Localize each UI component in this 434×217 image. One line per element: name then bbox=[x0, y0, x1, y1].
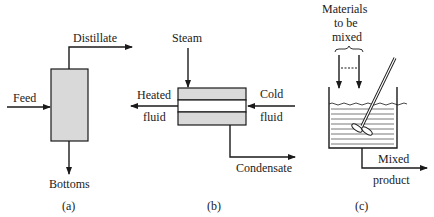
process-diagrams: Feed Distillate Bottoms (a) Steam Cold f… bbox=[0, 0, 434, 217]
heated-label-1: Heated bbox=[137, 88, 171, 102]
caption-b: (b) bbox=[207, 199, 221, 213]
brace bbox=[335, 46, 363, 52]
diagram-c-mixing-tank: Materials to be mixed Mixed product (c) bbox=[322, 2, 427, 213]
heated-label-2: fluid bbox=[143, 110, 166, 124]
feed-label: Feed bbox=[13, 91, 36, 105]
caption-a: (a) bbox=[62, 199, 75, 213]
distillate-label: Distillate bbox=[73, 31, 117, 45]
shell-bottom bbox=[178, 112, 246, 125]
materials-label-3: mixed bbox=[332, 30, 362, 44]
liquid bbox=[329, 103, 407, 144]
diagram-b-heat-exchanger: Steam Cold fluid Heated fluid Condensate… bbox=[131, 31, 295, 213]
distillate-arrow bbox=[69, 47, 132, 69]
cold-label-1: Cold bbox=[260, 87, 283, 101]
tube bbox=[178, 100, 246, 112]
condensate-label: Condensate bbox=[236, 161, 292, 175]
impeller-blade-2 bbox=[361, 125, 374, 136]
cold-label-2: fluid bbox=[260, 110, 283, 124]
shell-top bbox=[178, 88, 246, 100]
condensate-arrow bbox=[230, 125, 295, 157]
mixed-label-1: Mixed bbox=[378, 152, 409, 166]
column-vessel bbox=[51, 69, 88, 141]
steam-label: Steam bbox=[172, 31, 203, 45]
caption-c: (c) bbox=[355, 199, 368, 213]
materials-label-1: Materials bbox=[322, 2, 368, 16]
mixed-label-2: product bbox=[373, 173, 410, 187]
diagram-a-column: Feed Distillate Bottoms (a) bbox=[7, 31, 132, 213]
bottoms-label: Bottoms bbox=[49, 177, 90, 191]
materials-label-2: to be bbox=[334, 16, 358, 30]
